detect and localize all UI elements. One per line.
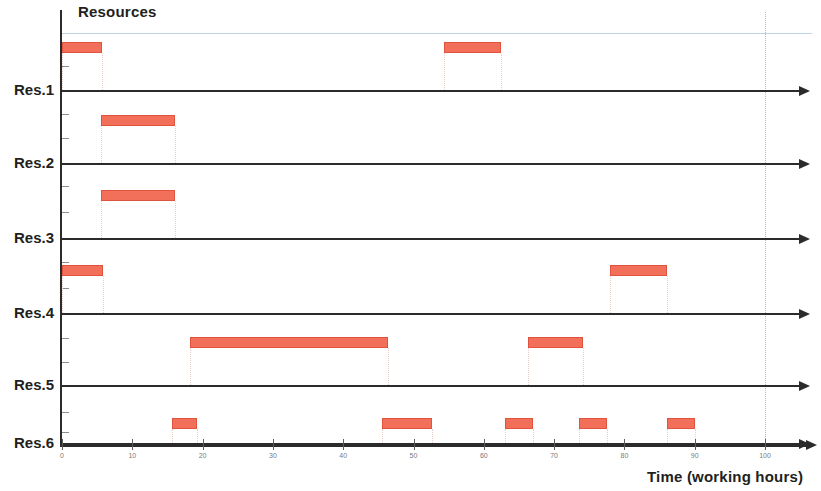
vertical-guide bbox=[101, 201, 102, 238]
y-axis-minor-tick-6 bbox=[62, 262, 69, 263]
resource-axis-arrow-icon-4 bbox=[799, 309, 810, 319]
task-bar[interactable] bbox=[101, 190, 176, 201]
x-axis-tick-60 bbox=[484, 439, 485, 450]
vertical-guide bbox=[102, 53, 103, 90]
task-bar[interactable] bbox=[172, 418, 197, 429]
task-bar[interactable] bbox=[579, 418, 607, 429]
task-bar[interactable] bbox=[382, 418, 432, 429]
y-axis-minor-tick-1 bbox=[62, 66, 69, 67]
y-axis-title: Resources bbox=[78, 3, 157, 20]
y-axis-minor-tick-4 bbox=[62, 186, 69, 187]
x-axis-tick-label-50: 50 bbox=[402, 452, 426, 459]
x-axis-title: Time (working hours) bbox=[647, 468, 803, 485]
x-axis-tick-70 bbox=[554, 439, 555, 450]
task-bar[interactable] bbox=[190, 337, 388, 348]
x-axis-tick-label-40: 40 bbox=[331, 452, 355, 459]
vertical-guide bbox=[175, 126, 176, 163]
resource-label-3: Res.3 bbox=[0, 229, 54, 246]
task-bar[interactable] bbox=[528, 337, 583, 348]
y-axis-minor-tick-10 bbox=[62, 412, 69, 413]
x-axis-tick-label-10: 10 bbox=[120, 452, 144, 459]
x-axis-tick-label-80: 80 bbox=[612, 452, 636, 459]
resource-label-4: Res.4 bbox=[0, 304, 54, 321]
x-axis-tick-label-70: 70 bbox=[542, 452, 566, 459]
resource-gantt-chart: Resources Res.1Res.2Res.3Res.4Res.5Res.6… bbox=[0, 0, 821, 491]
vertical-guide bbox=[667, 276, 668, 313]
vertical-guide bbox=[501, 53, 502, 90]
x-axis-tick-90 bbox=[695, 439, 696, 450]
resource-label-6: Res.6 bbox=[0, 434, 54, 451]
x-axis-tick-50 bbox=[414, 439, 415, 450]
vertical-guide bbox=[610, 276, 611, 313]
top-guide-rule bbox=[62, 33, 812, 34]
resource-label-1: Res.1 bbox=[0, 81, 54, 98]
task-bar[interactable] bbox=[62, 265, 103, 276]
vertical-guide bbox=[382, 429, 383, 443]
task-bar[interactable] bbox=[101, 115, 176, 126]
vertical-guide bbox=[607, 429, 608, 443]
resource-axis-arrow-icon-3 bbox=[799, 234, 810, 244]
vertical-guide bbox=[388, 348, 389, 385]
y-axis-minor-tick-3 bbox=[62, 138, 69, 139]
vertical-guide bbox=[667, 429, 668, 443]
y-axis-minor-tick-7 bbox=[62, 288, 69, 289]
vertical-guide bbox=[579, 429, 580, 443]
resource-label-5: Res.5 bbox=[0, 376, 54, 393]
x-axis-tick-label-100: 100 bbox=[753, 452, 777, 459]
resource-baseline-4 bbox=[60, 313, 800, 315]
y-axis-minor-tick-11 bbox=[62, 432, 69, 433]
vertical-guide bbox=[528, 348, 529, 385]
task-bar[interactable] bbox=[610, 265, 667, 276]
vertical-guide bbox=[190, 348, 191, 385]
resource-axis-arrow-icon-2 bbox=[799, 159, 810, 169]
x-axis-tick-100 bbox=[765, 439, 766, 450]
y-axis-minor-tick-2 bbox=[62, 114, 69, 115]
vertical-guide bbox=[765, 12, 766, 445]
x-axis-tick-0 bbox=[62, 439, 63, 450]
x-axis-tick-label-60: 60 bbox=[472, 452, 496, 459]
vertical-guide bbox=[62, 276, 63, 313]
resource-baseline-3 bbox=[60, 238, 800, 240]
vertical-guide bbox=[505, 429, 506, 443]
task-bar[interactable] bbox=[444, 42, 501, 53]
vertical-guide bbox=[432, 429, 433, 443]
resource-baseline-1 bbox=[60, 90, 800, 92]
vertical-guide bbox=[103, 276, 104, 313]
vertical-guide bbox=[172, 429, 173, 443]
task-bar[interactable] bbox=[62, 42, 102, 53]
resource-baseline-2 bbox=[60, 163, 800, 165]
resource-axis-arrow-icon-1 bbox=[799, 86, 810, 96]
x-axis-tick-40 bbox=[343, 439, 344, 450]
vertical-guide bbox=[62, 53, 63, 90]
y-axis-minor-tick-5 bbox=[62, 212, 69, 213]
x-axis-tick-10 bbox=[132, 439, 133, 450]
x-axis-tick-20 bbox=[203, 439, 204, 450]
x-axis-tick-label-0: 0 bbox=[50, 452, 74, 459]
task-bar[interactable] bbox=[505, 418, 533, 429]
y-axis-minor-tick-8 bbox=[62, 338, 69, 339]
task-bar[interactable] bbox=[667, 418, 695, 429]
resource-baseline-5 bbox=[60, 385, 800, 387]
vertical-guide bbox=[533, 429, 534, 443]
x-axis-tick-80 bbox=[624, 439, 625, 450]
resource-label-2: Res.2 bbox=[0, 154, 54, 171]
x-axis-tick-30 bbox=[273, 439, 274, 450]
vertical-guide bbox=[444, 53, 445, 90]
x-axis-tick-label-90: 90 bbox=[683, 452, 707, 459]
vertical-guide bbox=[101, 126, 102, 163]
y-axis-minor-tick-9 bbox=[62, 362, 69, 363]
resource-axis-arrow-icon-5 bbox=[799, 381, 810, 391]
vertical-guide bbox=[175, 201, 176, 238]
vertical-guide bbox=[197, 429, 198, 443]
x-axis-tick-label-30: 30 bbox=[261, 452, 285, 459]
x-axis-line bbox=[60, 445, 808, 447]
vertical-guide bbox=[583, 348, 584, 385]
x-axis-tick-label-20: 20 bbox=[191, 452, 215, 459]
x-axis-arrow-icon bbox=[806, 440, 817, 450]
